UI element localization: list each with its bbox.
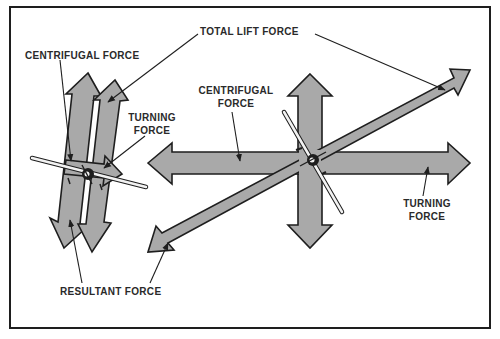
label-turning-force-left-line1: TURNING [127,111,177,124]
label-centrifugal-force-right-line1: CENTRIFUGAL [196,84,276,97]
label-centrifugal-force-right: CENTRIFUGAL FORCE [196,84,276,110]
label-turning-force-left-line2: FORCE [127,124,177,137]
label-centrifugal-force-right-line2: FORCE [196,97,276,110]
label-resultant-force: RESULTANT FORCE [60,285,161,298]
label-turning-force-left: TURNING FORCE [127,111,177,137]
label-turning-force-right: TURNING FORCE [400,197,454,223]
label-turning-force-right-line2: FORCE [400,210,454,223]
label-centrifugal-force-left: CENTRIFUGAL FORCE [25,49,139,62]
forces-in-turn-diagram: TOTAL LIFT FORCE CENTRIFUGAL FORCE TURNI… [0,0,500,339]
label-total-lift-force: TOTAL LIFT FORCE [200,25,299,38]
label-turning-force-right-line1: TURNING [400,197,454,210]
left-force-diagram [32,73,146,252]
